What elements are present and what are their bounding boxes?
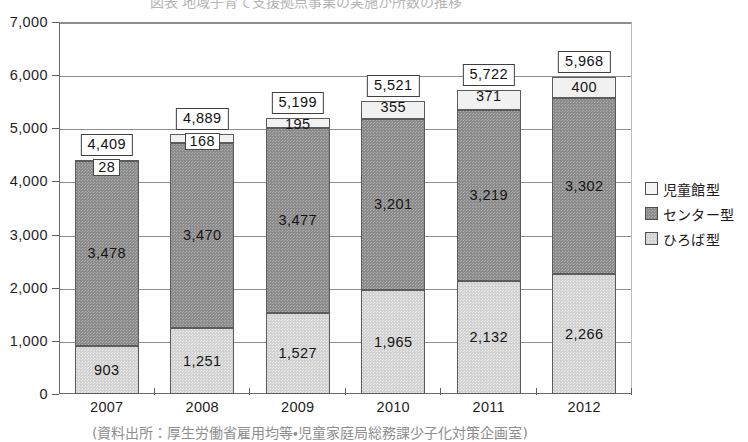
legend-item-hiroba[interactable]: ひろば型 xyxy=(645,226,734,251)
y-axis-tick-label: 2,000 xyxy=(0,280,48,296)
gridline xyxy=(60,23,631,24)
bar-segment-value: 1,527 xyxy=(279,346,317,361)
x-axis-tick-label: 2012 xyxy=(539,399,629,415)
page-title: 図表 地域子育て支援拠点事業の実施か所数の推移 xyxy=(150,0,462,9)
bar-segment[interactable]: 1,527 xyxy=(266,313,330,394)
bar-segment-value: 195 xyxy=(285,117,310,132)
x-axis-tick xyxy=(345,388,346,395)
bar-segment-value: 903 xyxy=(94,363,119,378)
legend-swatch-center-icon xyxy=(645,207,658,220)
bar-total-label: 5,968 xyxy=(558,51,610,73)
bar-segment[interactable]: 3,478 xyxy=(75,161,139,346)
x-axis-tick xyxy=(536,388,537,395)
bar-stack[interactable]: 1,5273,477195 xyxy=(266,22,330,394)
bar-segment-value: 2,132 xyxy=(470,330,508,345)
bar-segment[interactable]: 3,302 xyxy=(552,98,616,273)
y-axis-tick xyxy=(52,288,59,289)
y-axis-tick-label: 1,000 xyxy=(0,333,48,349)
y-axis-tick-label: 6,000 xyxy=(0,67,48,83)
bar-segment-value: 3,302 xyxy=(565,179,603,194)
y-axis-tick-label: 5,000 xyxy=(0,120,48,136)
bar-segment-value: 3,219 xyxy=(470,188,508,203)
chart-legend: 児童館型 センター型 ひろば型 xyxy=(645,176,734,251)
legend-label-jidoukan: 児童館型 xyxy=(663,179,720,199)
y-axis-tick-label: 0 xyxy=(0,386,48,402)
bar-segment[interactable]: 3,470 xyxy=(170,143,234,327)
bar-segment[interactable]: 28 xyxy=(75,160,139,162)
y-axis-tick-label: 4,000 xyxy=(0,173,48,189)
bar-total-label: 5,722 xyxy=(463,64,515,86)
y-axis-tick xyxy=(52,341,59,342)
bar-segment[interactable]: 400 xyxy=(552,77,616,98)
x-axis-tick xyxy=(631,388,632,395)
bar-stack[interactable]: 9033,47828 xyxy=(75,22,139,394)
gridline xyxy=(60,289,631,290)
bar-segment-value: 1,251 xyxy=(183,354,221,369)
x-axis-tick-label: 2007 xyxy=(62,399,152,415)
x-axis-tick-label: 2010 xyxy=(348,399,438,415)
bar-total-label: 4,409 xyxy=(81,134,133,156)
legend-item-center[interactable]: センター型 xyxy=(645,201,734,226)
y-axis-tick xyxy=(52,394,59,395)
bar-segment[interactable]: 903 xyxy=(75,346,139,394)
bar-segment[interactable]: 1,251 xyxy=(170,328,234,394)
gridline xyxy=(60,76,631,77)
bar-segment-value: 168 xyxy=(185,133,220,150)
bar-segment-value: 355 xyxy=(381,100,406,115)
bar-segment[interactable]: 2,266 xyxy=(552,274,616,394)
bar-segment-value: 3,478 xyxy=(88,246,126,261)
bar-segment[interactable]: 3,201 xyxy=(361,119,425,289)
bar-segment-value: 400 xyxy=(572,80,597,95)
y-axis-tick xyxy=(52,181,59,182)
plot-area xyxy=(59,22,632,394)
bar-total-label: 5,199 xyxy=(272,92,324,114)
gridline xyxy=(60,129,631,130)
bar-segment-value: 2,266 xyxy=(565,327,603,342)
bar-total-label: 4,889 xyxy=(176,108,228,130)
bar-segment-value: 1,965 xyxy=(374,335,412,350)
source-caption: (資料出所：厚生労働省雇用均等・児童家庭局総務課少子化対策企画室) xyxy=(92,424,528,442)
bar-segment[interactable]: 3,219 xyxy=(457,110,521,281)
legend-label-center: センター型 xyxy=(663,204,734,224)
source-caption-crop: (資料出所：厚生労働省雇用均等・児童家庭局総務課少子化対策企画室) xyxy=(0,424,748,442)
bar-segment[interactable]: 3,477 xyxy=(266,128,330,313)
gridline xyxy=(60,342,631,343)
x-axis-tick xyxy=(440,388,441,395)
gridline xyxy=(60,182,631,183)
bar-segment[interactable]: 2,132 xyxy=(457,281,521,394)
y-axis-tick xyxy=(52,128,59,129)
bar-segment[interactable]: 371 xyxy=(457,90,521,110)
bar-segment[interactable]: 168 xyxy=(170,134,234,143)
bar-segment-value: 371 xyxy=(476,89,501,104)
page-title-crop: 図表 地域子育て支援拠点事業の実施か所数の推移 xyxy=(0,0,748,9)
bar-segment-value: 3,477 xyxy=(279,213,317,228)
x-axis-tick xyxy=(154,388,155,395)
x-axis-tick-label: 2009 xyxy=(253,399,343,415)
x-axis-tick-label: 2008 xyxy=(157,399,247,415)
bar-total-label: 5,521 xyxy=(367,75,419,97)
bar-stack[interactable]: 1,2513,470168 xyxy=(170,22,234,394)
bar-segment-value: 3,470 xyxy=(183,228,221,243)
bar-segment-value: 3,201 xyxy=(374,197,412,212)
bar-segment[interactable]: 1,965 xyxy=(361,290,425,394)
bar-segment[interactable]: 355 xyxy=(361,101,425,120)
x-axis-tick xyxy=(249,388,250,395)
legend-swatch-jidoukan-icon xyxy=(645,182,658,195)
y-axis-tick-label: 7,000 xyxy=(0,14,48,30)
legend-swatch-hiroba-icon xyxy=(645,232,658,245)
bar-segment[interactable]: 195 xyxy=(266,118,330,128)
y-axis-tick-label: 3,000 xyxy=(0,227,48,243)
legend-item-jidoukan[interactable]: 児童館型 xyxy=(645,176,734,201)
y-axis-tick xyxy=(52,235,59,236)
x-axis-tick-label: 2011 xyxy=(444,399,534,415)
y-axis-tick xyxy=(52,75,59,76)
bar-segment-value: 28 xyxy=(93,159,120,176)
legend-label-hiroba: ひろば型 xyxy=(663,229,720,249)
stacked-bar-chart: 図表 地域子育て支援拠点事業の実施か所数の推移 01,0002,0003,000… xyxy=(0,0,748,442)
y-axis-tick xyxy=(52,22,59,23)
gridline xyxy=(60,236,631,237)
bar-stack[interactable]: 2,2663,302400 xyxy=(552,22,616,394)
